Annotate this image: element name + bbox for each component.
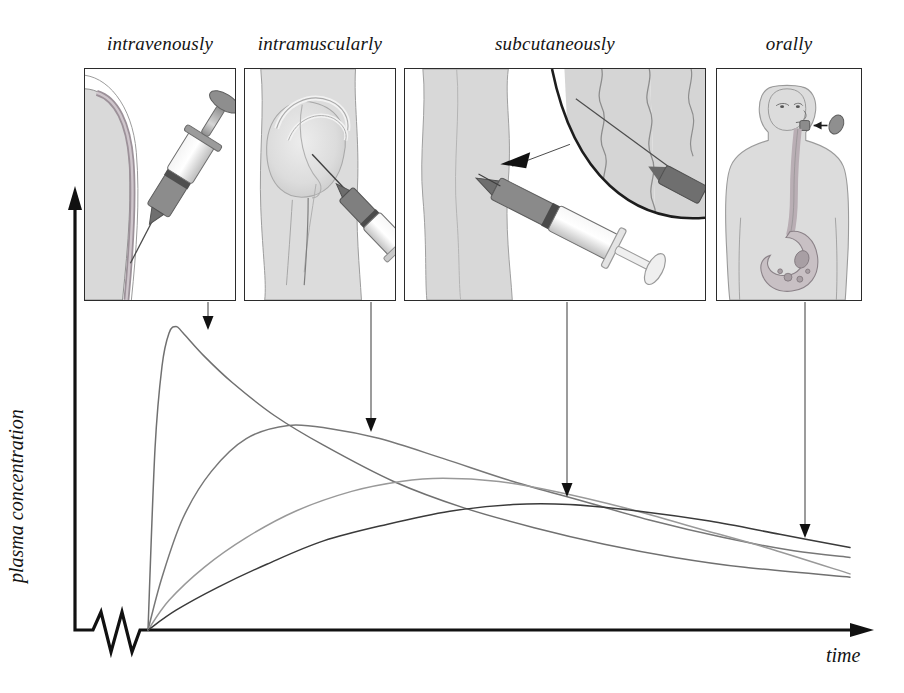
arrow-head-intramuscularly: [366, 418, 377, 432]
axis-break-zigzag: [75, 608, 148, 652]
x-axis-label: time: [826, 644, 860, 667]
y-axis: [68, 186, 82, 608]
x-axis: [148, 623, 874, 637]
curve-subcutaneous: [148, 478, 850, 630]
panel-to-curve-arrows: [203, 302, 811, 538]
concentration-curves: [148, 326, 850, 630]
arrow-head-intravenously: [203, 316, 214, 330]
arrow-head-orally: [800, 524, 811, 538]
y-axis-label: plasma concentration: [5, 409, 28, 583]
figure-root: intravenously intramuscularly subcutaneo…: [0, 0, 904, 693]
caption-strip: [0, 676, 904, 693]
curve-intravenous: [148, 326, 850, 630]
plot-area: [0, 0, 904, 693]
plot-svg: [0, 0, 904, 693]
